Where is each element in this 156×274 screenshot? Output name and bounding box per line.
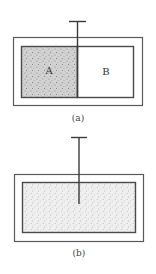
label-b: B bbox=[102, 66, 109, 77]
diagram-canvas: A B (a) (b) bbox=[0, 0, 156, 274]
figure-b: (b) bbox=[15, 137, 144, 258]
caption-a: (a) bbox=[72, 113, 84, 123]
caption-b: (b) bbox=[73, 248, 86, 258]
figure-a: A B (a) bbox=[14, 21, 143, 123]
label-a: A bbox=[44, 65, 53, 76]
